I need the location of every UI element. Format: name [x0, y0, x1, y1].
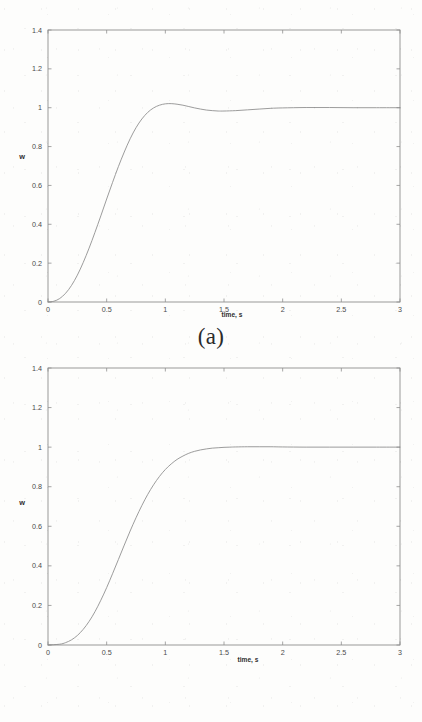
y-axis-title: w	[18, 498, 25, 507]
x-tick-label: 0.5	[102, 648, 112, 657]
caption-a: (a)	[0, 324, 422, 350]
y-tick-label: 0.8	[32, 142, 42, 151]
x-tick-label: 0.5	[102, 305, 112, 314]
x-axis-title: time, s	[222, 311, 243, 319]
y-tick-label: 0.8	[32, 482, 42, 491]
y-tick-label: 0.6	[32, 522, 42, 531]
y-tick-label: 1.2	[32, 403, 42, 412]
y-tick-label: 0.6	[32, 181, 42, 190]
data-curve	[48, 104, 400, 302]
x-tick-label: 0	[46, 648, 50, 657]
x-tick-label: 1	[163, 305, 167, 314]
x-tick-label: 3	[398, 648, 402, 657]
y-tick-label: 0.2	[32, 601, 42, 610]
x-tick-label: 2	[281, 305, 285, 314]
y-tick-label: 0.4	[32, 220, 42, 229]
data-curve	[48, 447, 400, 645]
x-tick-label: 1.5	[219, 648, 229, 657]
chart-b-svg: 00.511.522.5300.20.40.60.811.21.4time, s…	[0, 360, 422, 680]
x-tick-label: 2.5	[336, 648, 346, 657]
y-tick-label: 0.4	[32, 561, 42, 570]
x-tick-label: 3	[398, 305, 402, 314]
y-axis-title: w	[18, 152, 25, 161]
x-axis-title: time, s	[238, 656, 259, 664]
x-tick-label: 2.5	[336, 305, 346, 314]
figure-b: 00.511.522.5300.20.40.60.811.21.4time, s…	[0, 360, 422, 722]
y-tick-label: 1.4	[32, 364, 42, 373]
y-tick-label: 1.2	[32, 64, 42, 73]
x-tick-label: 0	[46, 305, 50, 314]
x-tick-label: 2	[281, 648, 285, 657]
plot-a: 00.511.522.5300.20.40.60.811.21.4time, s…	[0, 0, 422, 320]
y-tick-label: 0	[38, 298, 42, 307]
y-tick-label: 0.2	[32, 259, 42, 268]
chart-a-svg: 00.511.522.5300.20.40.60.811.21.4time, s…	[0, 0, 422, 320]
y-tick-label: 1	[38, 103, 42, 112]
y-tick-label: 1	[38, 443, 42, 452]
y-tick-label: 0	[38, 641, 42, 650]
y-tick-label: 1.4	[32, 26, 42, 35]
figure-a: 00.511.522.5300.20.40.60.811.21.4time, s…	[0, 0, 422, 360]
plot-b: 00.511.522.5300.20.40.60.811.21.4time, s…	[0, 360, 422, 680]
figure-page: 00.511.522.5300.20.40.60.811.21.4time, s…	[0, 0, 422, 722]
x-tick-label: 1	[163, 648, 167, 657]
